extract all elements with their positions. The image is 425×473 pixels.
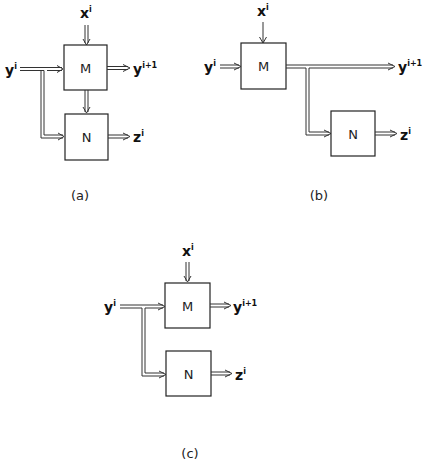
label-y-output: yi+1 [398, 59, 423, 75]
arrow-m-to-y-output [107, 65, 130, 72]
label-y-input: yi [104, 299, 116, 315]
arrow-x-to-m [260, 22, 267, 43]
panel-c: xi M yi yi+1 N [104, 243, 258, 461]
caption-c: (c) [181, 446, 198, 461]
arrow-y-to-m [220, 63, 241, 70]
box-m-label: M [258, 59, 269, 74]
box-n-label: N [82, 130, 92, 145]
arrow-n-to-z-output [375, 130, 397, 137]
block-diagrams: xi M yi [0, 0, 425, 473]
label-x-input: xi [80, 5, 92, 21]
arrow-m-to-n [306, 68, 331, 137]
box-n-label: N [184, 367, 194, 382]
caption-b: (b) [310, 188, 328, 203]
label-x-input: xi [257, 3, 269, 19]
arrow-m-to-n [83, 90, 90, 113]
caption-a: (a) [71, 188, 89, 203]
arrow-y-to-n [142, 308, 166, 378]
box-m-label: M [182, 299, 193, 314]
arrow-n-to-z-output [211, 370, 232, 377]
arrow-x-to-m [83, 25, 90, 45]
arrow-m-to-y-output [286, 63, 395, 70]
label-y-output: yi+1 [133, 61, 158, 77]
label-z-output: zi [235, 367, 246, 383]
arrow-x-to-m [184, 262, 191, 282]
diagram-canvas: xi M yi [0, 0, 425, 473]
panel-a: xi M yi [5, 5, 158, 203]
panel-b: xi M yi yi+1 N [204, 3, 423, 203]
label-x-input: xi [182, 243, 194, 259]
label-y-output: yi+1 [233, 299, 258, 315]
arrow-y-to-n [41, 71, 64, 141]
box-n-label: N [348, 127, 358, 142]
label-y-input: yi [204, 59, 216, 75]
label-z-output: zi [400, 127, 411, 143]
box-m-label: M [80, 61, 91, 76]
arrow-m-to-y-output [210, 302, 231, 309]
label-z-output: zi [133, 129, 144, 145]
label-y-input: yi [5, 62, 17, 78]
arrow-n-to-z-output [108, 133, 130, 140]
